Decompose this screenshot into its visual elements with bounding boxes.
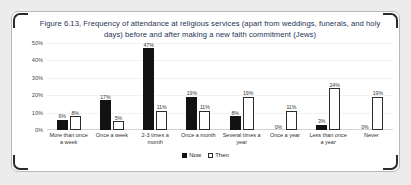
bar-value-label: 6% (58, 113, 66, 119)
bar-groups: 6%8%17%5%47%11%19%11%8%19%0%11%3%24%0%19… (47, 43, 393, 130)
legend-item-then: Then (208, 152, 229, 158)
bar-then[interactable]: 19% (372, 43, 383, 130)
bar-rect (57, 120, 68, 130)
bar-group: 17%5% (90, 43, 133, 130)
y-axis-tick-label: 0% (35, 127, 43, 133)
bar-rect (143, 48, 154, 130)
bar-then[interactable]: 11% (286, 43, 297, 130)
bar-then[interactable]: 11% (199, 43, 210, 130)
x-axis-labels: More than once a weekOnce a week2-3 time… (47, 132, 393, 146)
y-axis-tick-label: 20% (32, 92, 43, 98)
bar-value-label: 19% (243, 90, 253, 96)
bar-group: 0%11% (263, 43, 306, 130)
y-axis-tick-label: 40% (32, 57, 43, 63)
bar-value-label: 0% (361, 124, 369, 130)
bar-value-label: 0% (275, 124, 283, 130)
bar-value-label: 5% (115, 115, 123, 121)
bar-value-label: 19% (187, 90, 197, 96)
bar-now[interactable]: 6% (57, 43, 68, 130)
corner-bracket-bottom-left (13, 155, 28, 170)
bar-value-label: 3% (318, 118, 326, 124)
bar-then[interactable]: 8% (70, 43, 81, 130)
corner-bracket-top-left (13, 13, 28, 28)
bar-rect (70, 116, 81, 130)
x-axis-category-label: 2-3 times a month (134, 132, 177, 146)
bar-rect (329, 88, 340, 130)
bar-rect (243, 97, 254, 130)
legend-item-now: Now (182, 152, 201, 158)
x-axis-category-label: Never (350, 132, 393, 146)
x-axis-category-label: Once a year (263, 132, 306, 146)
legend-label-now: Now (189, 152, 201, 158)
y-axis-tick-label: 50% (32, 40, 43, 46)
bar-rect (372, 97, 383, 130)
bar-then[interactable]: 11% (156, 43, 167, 130)
bar-value-label: 11% (286, 104, 296, 110)
bar-value-label: 8% (231, 110, 239, 116)
bar-group: 6%8% (47, 43, 90, 130)
legend-swatch-now-icon (182, 153, 187, 158)
plot-area: 0%10%20%30%40%50% 6%8%17%5%47%11%19%11%8… (47, 43, 393, 130)
bar-group: 8%19% (220, 43, 263, 130)
legend-swatch-then-icon (208, 153, 213, 158)
bar-now[interactable]: 19% (186, 43, 197, 130)
bar-group: 3%24% (307, 43, 350, 130)
bar-now[interactable]: 47% (143, 43, 154, 130)
bar-now[interactable]: 17% (100, 43, 111, 130)
bar-value-label: 11% (157, 104, 167, 110)
x-axis-category-label: Once a month (177, 132, 220, 146)
bar-now[interactable]: 0% (359, 43, 370, 130)
bar-rect (100, 100, 111, 130)
bar-group: 0%19% (350, 43, 393, 130)
bar-rect (286, 111, 297, 130)
chart-title: Figure 6.13, Frequency of attendance at … (38, 18, 382, 40)
bar-value-label: 11% (200, 104, 210, 110)
y-axis-tick-label: 10% (32, 110, 43, 116)
bar-now[interactable]: 0% (273, 43, 284, 130)
x-axis-category-label: Once a week (90, 132, 133, 146)
bar-value-label: 17% (100, 94, 110, 100)
bar-value-label: 47% (143, 42, 153, 48)
bar-rect (199, 111, 210, 130)
bar-then[interactable]: 19% (243, 43, 254, 130)
bar-then[interactable]: 5% (113, 43, 124, 130)
bar-now[interactable]: 8% (230, 43, 241, 130)
legend-label-then: Then (215, 152, 229, 158)
bar-then[interactable]: 24% (329, 43, 340, 130)
y-axis-tick-label: 30% (32, 75, 43, 81)
bar-value-label: 24% (329, 82, 339, 88)
corner-bracket-top-right (383, 13, 398, 28)
bar-rect (113, 121, 124, 130)
x-axis-category-label: More than once a week (47, 132, 90, 146)
bar-rect (316, 125, 327, 130)
bar-rect (186, 97, 197, 130)
chart-legend: Now Then (12, 152, 399, 158)
bar-now[interactable]: 3% (316, 43, 327, 130)
corner-bracket-bottom-right (383, 155, 398, 170)
bar-rect (156, 111, 167, 130)
x-axis-category-label: Several times a year (220, 132, 263, 146)
bar-rect (230, 116, 241, 130)
figure-card: Figure 6.13, Frequency of attendance at … (11, 11, 400, 172)
bar-value-label: 8% (71, 110, 79, 116)
bar-value-label: 19% (373, 90, 383, 96)
x-axis-category-label: Less than once a year (307, 132, 350, 146)
bar-group: 47%11% (134, 43, 177, 130)
bar-group: 19%11% (177, 43, 220, 130)
